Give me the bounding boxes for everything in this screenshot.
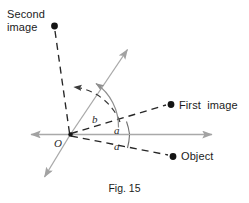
figure-caption: Fig. 15 bbox=[0, 182, 249, 194]
ray-to-second-image bbox=[55, 31, 70, 133]
arc-angle-a-upper bbox=[127, 122, 130, 135]
second-image-point bbox=[51, 23, 58, 30]
origin-point bbox=[68, 132, 72, 136]
mirror-axis-inclined bbox=[45, 50, 128, 178]
label-object: Object bbox=[181, 150, 213, 163]
label-second-image: Second image bbox=[7, 8, 45, 33]
object-point bbox=[170, 153, 177, 160]
label-origin: O bbox=[54, 137, 62, 150]
label-first-image: First image bbox=[179, 99, 238, 112]
label-angle-b: b bbox=[92, 113, 98, 126]
label-angle-a-upper: a bbox=[114, 124, 120, 137]
arc-angle-b bbox=[96, 84, 119, 128]
label-angle-a-lower: a bbox=[114, 140, 120, 153]
first-image-point bbox=[168, 101, 175, 108]
figure-15-diagram: Second image First image Object O b a a … bbox=[0, 0, 249, 203]
arc-angle-a-lower bbox=[128, 135, 130, 148]
